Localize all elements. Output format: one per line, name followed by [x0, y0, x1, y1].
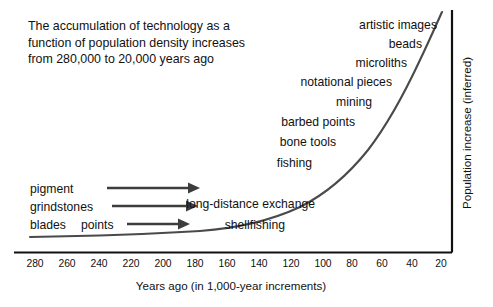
chart-figure: The accumulation of technology as a func…	[0, 0, 493, 307]
x-tick-label: 200	[154, 258, 171, 269]
arrow-source-label-grindstones: grindstones	[30, 201, 93, 214]
x-tick-label: 220	[122, 258, 139, 269]
tech-label: beads	[389, 38, 422, 51]
tech-label: mining	[336, 96, 372, 109]
arrow-grindstones	[112, 201, 198, 212]
tech-label: microliths	[356, 57, 407, 70]
x-tick-label: 240	[90, 258, 107, 269]
tech-label: artistic images	[359, 19, 437, 32]
tech-label: bone tools	[280, 136, 336, 149]
x-tick-label: 260	[58, 258, 75, 269]
arrow-source-label-pigment: pigment	[30, 183, 73, 196]
arrow-source-label-points: points	[81, 219, 114, 232]
x-axis-title: Years ago (in 1,000-year increments)	[136, 279, 326, 292]
x-tick-label: 140	[250, 258, 267, 269]
x-tick-label: 80	[346, 258, 357, 269]
x-tick-label: 60	[376, 258, 387, 269]
tech-label: notational pieces	[301, 76, 392, 89]
x-tick-label: 100	[314, 258, 331, 269]
x-tick-label: 120	[282, 258, 299, 269]
y-axis-title: Population increase (inferred)	[460, 57, 473, 209]
x-tick-label: 20	[435, 258, 446, 269]
arrow-source-label-blades: blades	[30, 219, 66, 232]
arrow-blades-points	[127, 219, 190, 230]
tech-label: long-distance exchange	[186, 198, 315, 211]
arrow-pigment	[107, 183, 200, 194]
x-tick-label: 160	[218, 258, 235, 269]
tech-label: barbed points	[281, 116, 355, 129]
x-tick-label: 180	[186, 258, 203, 269]
x-tick-label: 280	[26, 258, 43, 269]
x-tick-label: 40	[406, 258, 417, 269]
tech-label: shellfishing	[225, 219, 285, 232]
tech-label: fishing	[277, 157, 312, 170]
